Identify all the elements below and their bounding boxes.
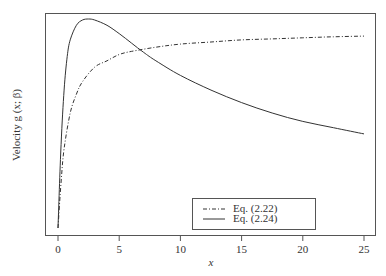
series-line-224: [58, 19, 364, 228]
x-axis-title: x: [208, 256, 214, 268]
legend-label-eq224: Eq. (2.24): [233, 212, 278, 225]
x-tick-label: 15: [236, 243, 248, 255]
x-tick-label: 0: [55, 243, 61, 255]
legend: Eq. (2.22) Eq. (2.24): [193, 199, 316, 230]
x-tick-label: 25: [359, 243, 371, 255]
x-tick-label: 5: [116, 243, 122, 255]
series-group: [58, 19, 364, 228]
x-axis-ticks: 0510152025: [55, 236, 370, 255]
x-tick-label: 10: [175, 243, 187, 255]
x-tick-label: 20: [297, 243, 309, 255]
y-axis-title: Velocity g (x; β): [10, 89, 23, 161]
chart: 0510152025 x Velocity g (x; β) Eq. (2.22…: [0, 0, 386, 276]
